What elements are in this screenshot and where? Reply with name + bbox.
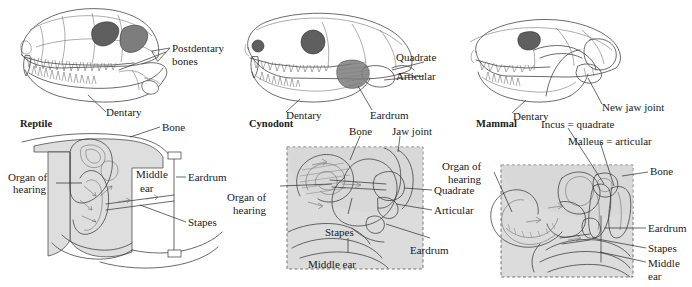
label-bone-cynodont: Bone [349, 125, 372, 137]
label-stapes-cynodont: Stapes [325, 226, 354, 238]
label-middle-ear-cynodont: Middle ear [308, 258, 356, 270]
stage-label-mammal: Mammal [476, 118, 517, 130]
label-eardrum-reptile: Eardrum [188, 171, 226, 183]
label-eardrum-mammal: Eardrum [648, 222, 686, 234]
label-postdentary-bones-line1: Postdentary [172, 42, 224, 54]
label-bone-mammal: Bone [650, 165, 673, 177]
label-organ-of-hearing-reptile-line2: hearing [13, 183, 46, 195]
label-malleus-equals-articular: Malleus = articular [568, 135, 652, 147]
label-quadrate-skull-cynodont: Quadrate [396, 51, 436, 63]
label-bone-reptile: Bone [162, 121, 185, 133]
label-eardrum-ear-cynodont: Eardrum [410, 244, 448, 256]
label-postdentary-bones-line2: bones [172, 55, 198, 67]
label-organ-of-hearing-cynodont-line2: hearing [233, 204, 266, 216]
label-middle-ear-reptile-line1: Middle [136, 168, 168, 180]
label-middle-ear-reptile-line2: ear [140, 182, 153, 194]
label-dentary-reptile: Dentary [106, 106, 141, 118]
label-jaw-joint-cynodont: Jaw joint [392, 125, 432, 137]
label-organ-of-hearing-mammal-line2: hearing [448, 173, 481, 185]
label-organ-of-hearing-mammal-line1: Organ of [442, 160, 481, 172]
mammal-skull-drawing [470, 19, 621, 113]
label-eardrum-skull-cynodont: Eardrum [370, 109, 408, 121]
label-new-jaw-joint-mammal: New jaw joint [602, 101, 664, 113]
label-stapes-mammal: Stapes [648, 242, 677, 254]
stage-label-reptile: Reptile [20, 118, 52, 130]
mammal-ear-drawing [491, 128, 648, 277]
label-articular-skull-cynodont: Articular [396, 70, 436, 82]
figure-canvas: Postdentary bones Dentary Reptile Bone O… [0, 0, 692, 287]
label-middle-ear-mammal-line1: Middle [648, 257, 680, 269]
label-organ-of-hearing-cynodont-line1: Organ of [227, 191, 266, 203]
label-incus-equals-quadrate: Incus = quadrate [541, 118, 614, 130]
reptile-ear-drawing [22, 127, 222, 268]
label-organ-of-hearing-reptile-line1: Organ of [8, 171, 47, 183]
label-middle-ear-mammal-line2: ear [648, 270, 661, 282]
reptile-skull-drawing [21, 9, 170, 112]
label-articular-ear-cynodont: Articular [434, 204, 474, 216]
label-stapes-reptile: Stapes [188, 216, 217, 228]
label-quadrate-ear-cynodont: Quadrate [434, 184, 474, 196]
stage-label-cynodont: Cynodont [249, 118, 293, 130]
